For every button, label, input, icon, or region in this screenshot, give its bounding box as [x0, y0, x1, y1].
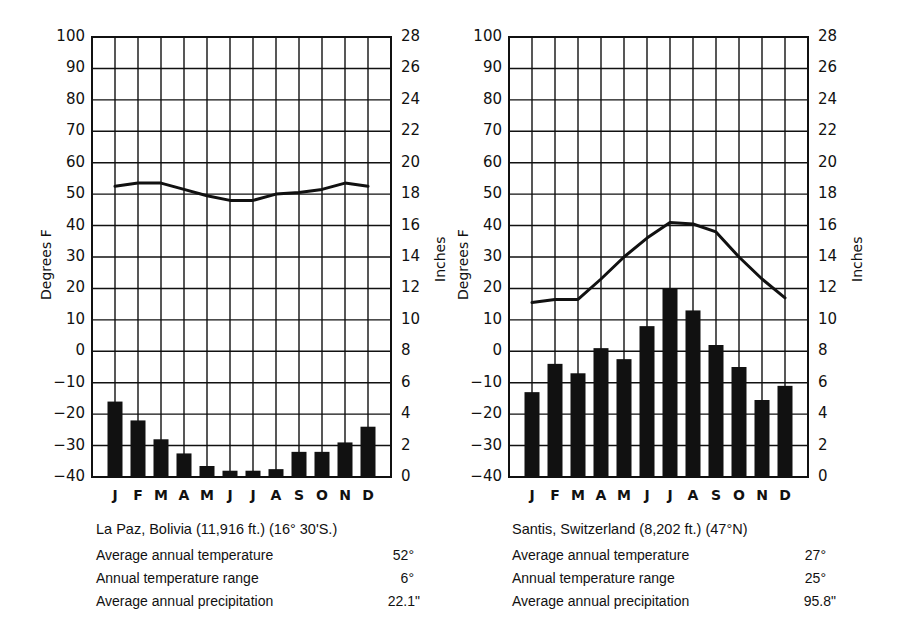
- y-tick-label: 50: [452, 186, 502, 201]
- x-tick-label: J: [660, 487, 680, 503]
- stat-value: 95.8": [786, 593, 836, 609]
- y2-tick-label: 18: [818, 186, 858, 201]
- y-tick-label: −30: [452, 438, 502, 453]
- precip-bar: [778, 386, 793, 477]
- y2-tick-label: 10: [818, 312, 858, 327]
- y-tick-label: −20: [452, 406, 502, 421]
- y2-tick-label: 0: [818, 469, 858, 484]
- temperature-line: [532, 222, 785, 302]
- y2-tick-label: 2: [818, 438, 858, 453]
- precip-bar: [617, 359, 632, 477]
- y2-tick-label: 4: [818, 406, 858, 421]
- y-tick-label: 0: [452, 343, 502, 358]
- precip-bar: [732, 367, 747, 477]
- chart-title: Santis, Switzerland (8,202 ft.) (47°N): [512, 521, 747, 537]
- y-axis-label: Degrees F: [455, 229, 471, 300]
- y2-tick-label: 22: [818, 123, 858, 138]
- x-tick-label: O: [729, 487, 749, 503]
- x-tick-label: M: [614, 487, 634, 503]
- y-tick-label: 10: [452, 312, 502, 327]
- precip-bar: [594, 348, 609, 477]
- y2-tick-label: 16: [818, 218, 858, 233]
- y-tick-label: 80: [452, 92, 502, 107]
- x-tick-label: J: [637, 487, 657, 503]
- y-tick-label: 60: [452, 155, 502, 170]
- y2-axis-label: Inches: [849, 237, 865, 282]
- x-tick-label: N: [752, 487, 772, 503]
- x-tick-label: S: [706, 487, 726, 503]
- stat-label: Average annual temperature: [512, 547, 689, 563]
- precip-bar: [640, 326, 655, 477]
- x-tick-label: A: [683, 487, 703, 503]
- stat-label: Average annual precipitation: [512, 593, 689, 609]
- x-tick-label: A: [591, 487, 611, 503]
- stat-value: 27°: [776, 547, 826, 563]
- y2-tick-label: 12: [818, 280, 858, 295]
- y2-tick-label: 6: [818, 375, 858, 390]
- x-tick-label: M: [568, 487, 588, 503]
- y2-tick-label: 20: [818, 155, 858, 170]
- y-tick-label: −40: [452, 469, 502, 484]
- stat-label: Annual temperature range: [512, 570, 675, 586]
- precip-bar: [709, 345, 724, 477]
- precip-bar: [548, 364, 563, 477]
- x-tick-label: J: [522, 487, 542, 503]
- precip-bar: [663, 288, 678, 477]
- precip-bar: [571, 373, 586, 477]
- plot-area: [0, 0, 899, 642]
- precip-bar: [755, 400, 770, 477]
- y-tick-label: 70: [452, 123, 502, 138]
- y2-tick-label: 24: [818, 92, 858, 107]
- y-tick-label: 90: [452, 60, 502, 75]
- y-tick-label: −10: [452, 375, 502, 390]
- y2-tick-label: 26: [818, 60, 858, 75]
- precip-bar: [525, 392, 540, 477]
- precip-bar: [686, 310, 701, 477]
- y-tick-label: 100: [452, 29, 502, 44]
- x-tick-label: D: [775, 487, 795, 503]
- y2-tick-label: 28: [818, 29, 858, 44]
- y2-tick-label: 8: [818, 343, 858, 358]
- stat-value: 25°: [776, 570, 826, 586]
- x-tick-label: F: [545, 487, 565, 503]
